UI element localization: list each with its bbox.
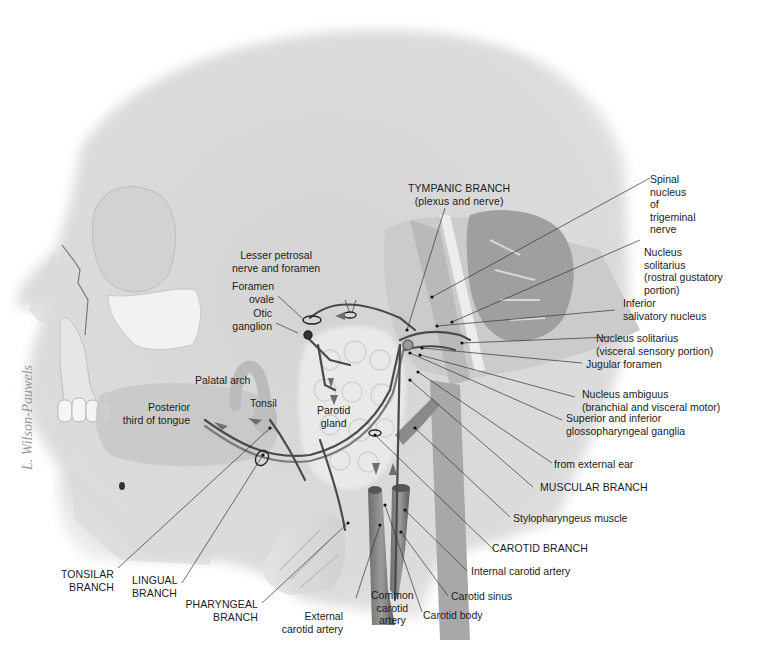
label-posterior-third-tongue: Posterior third of tongue — [118, 401, 190, 426]
label-from-external-ear: from external ear — [554, 458, 633, 471]
label-line: (visceral sensory portion) — [596, 345, 713, 358]
label-stylopharyngeus-muscle: Stylopharyngeus muscle — [513, 512, 627, 525]
label-line: solitarius — [644, 259, 723, 272]
label-external-carotid-artery: External carotid artery — [279, 610, 343, 635]
label-otic-ganglion: Otic ganglion — [222, 307, 272, 332]
label-tonsilar-branch: TONSILAR BRANCH — [56, 568, 114, 593]
label-line: carotid artery — [279, 623, 343, 636]
label-line: Otic — [222, 307, 272, 320]
label-line: Superior and inferior — [566, 412, 685, 425]
label-line: TONSILAR — [56, 568, 114, 581]
label-line: Posterior — [118, 401, 190, 414]
label-tympanic-branch: TYMPANIC BRANCH (plexus and nerve) — [408, 182, 510, 207]
label-muscular-branch: MUSCULAR BRANCH — [540, 481, 648, 494]
label-line: ovale — [232, 293, 274, 306]
artist-signature: L. Wilson-Pauwels — [20, 365, 36, 470]
anatomy-illustration — [0, 0, 768, 657]
label-carotid-body: Carotid body — [423, 609, 483, 622]
label-lesser-petrosal-nerve: Lesser petrosal nerve and foramen — [232, 249, 320, 274]
label-common-carotid-artery: Common carotid artery — [371, 589, 414, 627]
label-line: gland — [317, 417, 350, 430]
label-line: nerve and foramen — [232, 262, 320, 275]
label-line: Nucleus solitarius — [596, 332, 713, 345]
label-line: Nucleus ambiguus — [582, 388, 720, 401]
label-glossopharyngeal-ganglia: Superior and inferior glossopharyngeal g… — [566, 412, 685, 437]
label-nucleus-ambiguus: Nucleus ambiguus (branchial and visceral… — [582, 388, 720, 413]
label-tonsil: Tonsil — [250, 397, 277, 410]
label-line: salivatory nucleus — [623, 310, 706, 323]
label-line: LINGUAL — [132, 574, 178, 587]
label-line: nucleus — [650, 186, 696, 199]
label-palatal-arch: Palatal arch — [195, 374, 250, 387]
label-line: carotid — [371, 602, 414, 615]
label-pharyngeal-branch: PHARYNGEAL BRANCH — [182, 598, 258, 623]
label-line: (rostral gustatory — [644, 271, 723, 284]
label-line: of — [650, 198, 696, 211]
label-line: trigeminal — [650, 211, 696, 224]
label-subtext: (plexus and nerve) — [408, 195, 510, 208]
label-line: glossopharyngeal ganglia — [566, 425, 685, 438]
label-text: TYMPANIC BRANCH — [408, 182, 510, 195]
label-carotid-branch: CAROTID BRANCH — [492, 542, 588, 555]
label-lingual-branch: LINGUAL BRANCH — [132, 574, 178, 599]
label-parotid-gland: Parotid gland — [317, 404, 350, 429]
label-line: BRANCH — [56, 581, 114, 594]
label-line: External — [279, 610, 343, 623]
label-line: Spinal — [650, 173, 696, 186]
label-inferior-salivatory-nucleus: Inferior salivatory nucleus — [623, 297, 706, 322]
label-line: BRANCH — [132, 587, 178, 600]
label-line: PHARYNGEAL — [182, 598, 258, 611]
label-line: Common — [371, 589, 414, 602]
label-internal-carotid-artery: Internal carotid artery — [471, 565, 570, 578]
label-jugular-foramen: Jugular foramen — [586, 358, 662, 371]
label-carotid-sinus: Carotid sinus — [451, 590, 512, 603]
label-line: Parotid — [317, 404, 350, 417]
label-line: third of tongue — [118, 414, 190, 427]
label-line: portion) — [644, 284, 723, 297]
label-line: BRANCH — [182, 611, 258, 624]
label-line: Inferior — [623, 297, 706, 310]
label-line: artery — [371, 614, 414, 627]
label-line: Lesser petrosal — [232, 249, 320, 262]
label-spinal-nucleus-trigeminal: Spinal nucleus of trigeminal nerve — [650, 173, 696, 236]
label-line: ganglion — [222, 320, 272, 333]
label-nucleus-solitarius-visceral: Nucleus solitarius (visceral sensory por… — [596, 332, 713, 357]
label-foramen-ovale: Foramen ovale — [232, 280, 274, 305]
label-line: Nucleus — [644, 246, 723, 259]
label-nucleus-solitarius-rostral: Nucleus solitarius (rostral gustatory po… — [644, 246, 723, 296]
label-line: Foramen — [232, 280, 274, 293]
label-line: nerve — [650, 223, 696, 236]
